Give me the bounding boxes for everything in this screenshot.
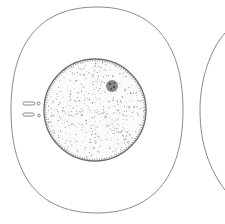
rod-body-2 <box>23 113 34 116</box>
adjacent-cell-membrane <box>200 33 225 190</box>
rod-bodies <box>23 102 40 117</box>
cell-diagram <box>0 0 225 224</box>
rod-body-1 <box>23 102 35 105</box>
nucleus <box>44 59 146 161</box>
rod-granule-1 <box>37 102 40 105</box>
nucleolus <box>106 80 118 92</box>
rod-granule-2 <box>38 114 41 117</box>
